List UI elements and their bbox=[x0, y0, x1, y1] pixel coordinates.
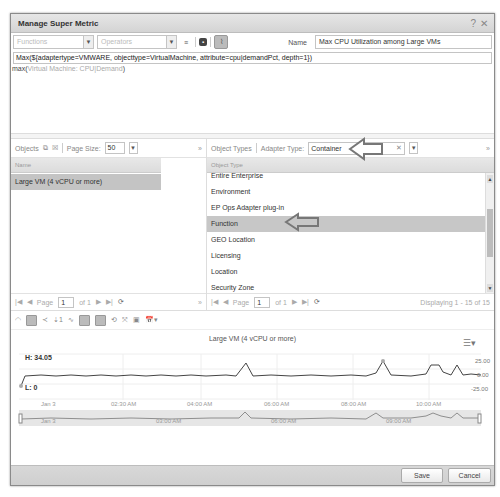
chevron-down-icon[interactable]: ▼ bbox=[129, 142, 138, 154]
cancel-button[interactable]: Cancel bbox=[448, 468, 491, 483]
formula-editor-area[interactable] bbox=[11, 73, 494, 133]
zoom-chart-icon[interactable] bbox=[79, 315, 90, 326]
metric-chart: Large VM (4 vCPU or more) ☰▾ H: 34.05 L:… bbox=[11, 330, 494, 435]
reset-icon[interactable]: ⟲ bbox=[111, 316, 117, 324]
high-label: H: 34.05 bbox=[25, 354, 52, 361]
object-types-panel: Object Types Adapter Type: Container ✕ ▼… bbox=[207, 139, 494, 310]
page-input[interactable]: 1 bbox=[58, 297, 74, 308]
help-icon[interactable]: ? bbox=[470, 18, 476, 29]
object-types-label: Object Types bbox=[211, 145, 252, 152]
chevron-down-icon[interactable]: ▼ bbox=[409, 142, 418, 154]
list-item[interactable]: EP Ops Adapter plug-in bbox=[207, 200, 494, 216]
divider bbox=[256, 143, 257, 153]
list-item[interactable]: Location bbox=[207, 264, 494, 280]
callout-arrow-icon bbox=[348, 137, 384, 161]
this-object-icon[interactable]: ≡ bbox=[180, 36, 192, 48]
prev-page-icon[interactable]: ◀ bbox=[27, 298, 32, 306]
zoom-view-icon[interactable] bbox=[95, 315, 106, 326]
refresh-icon[interactable]: ⟳ bbox=[118, 298, 124, 306]
date-range-icon[interactable]: 📅▾ bbox=[145, 316, 158, 324]
share-icon[interactable]: ≺ bbox=[42, 316, 48, 324]
line-chart[interactable]: H: 34.05 L: 0 25.00 0.00 -25.00 Jan 3 02… bbox=[11, 350, 496, 435]
expand-icon[interactable]: » bbox=[486, 145, 490, 152]
copy-icon[interactable]: ⧉ bbox=[43, 144, 48, 152]
dialog-titlebar: Manage Super Metric ? ✕ bbox=[11, 14, 494, 33]
svg-text:Jan 3: Jan 3 bbox=[41, 401, 56, 407]
list-item[interactable]: Environment bbox=[207, 184, 494, 200]
list-item[interactable]: Security Zone bbox=[207, 280, 494, 293]
svg-text:06:00 AM: 06:00 AM bbox=[271, 418, 296, 424]
objects-panel: Objects ⧉ ☒ Page Size: 50 ▼ » Name Large… bbox=[11, 139, 207, 310]
svg-text:03:00 AM: 03:00 AM bbox=[156, 418, 181, 424]
list-item[interactable]: Entire Enterprise bbox=[207, 173, 494, 184]
save-icon[interactable]: ▣ bbox=[133, 316, 140, 324]
top-n-icon[interactable]: ⇣1 bbox=[53, 316, 63, 324]
page-size-input[interactable]: 50 bbox=[105, 142, 125, 154]
svg-text:04:00 AM: 04:00 AM bbox=[187, 401, 212, 407]
svg-text:Jan 3: Jan 3 bbox=[41, 418, 56, 424]
functions-dropdown[interactable]: Functions ▼ bbox=[13, 35, 94, 49]
navigator-handle-left[interactable] bbox=[19, 414, 22, 423]
list-item[interactable]: GEO Location bbox=[207, 232, 494, 248]
clear-icon[interactable]: ☒ bbox=[52, 144, 58, 152]
clear-icon[interactable]: ✕ bbox=[396, 144, 402, 152]
svg-text:02:30 AM: 02:30 AM bbox=[111, 401, 136, 407]
close-icon[interactable]: ✕ bbox=[480, 18, 488, 29]
name-input[interactable]: Max CPU Utilization among Large VMs bbox=[315, 35, 492, 49]
object-types-pager: |◀ ◀ Page 1 of 1 ▶ ▶| ⟳ Displaying 1 - 1… bbox=[207, 293, 494, 310]
column-header-name[interactable]: Name bbox=[11, 158, 161, 173]
dashboard-icon[interactable]: ◠ bbox=[15, 316, 21, 324]
expand-icon[interactable]: » bbox=[198, 299, 202, 306]
formula-input[interactable]: Max(${adaptertype=VMWARE, objecttype=Vir… bbox=[13, 52, 492, 64]
toggle-chart-icon[interactable] bbox=[26, 315, 37, 326]
next-page-icon[interactable]: ▶ bbox=[96, 298, 101, 306]
manage-super-metric-dialog: Manage Super Metric ? ✕ Functions ▼ Oper… bbox=[10, 13, 495, 486]
preview-chart-icon[interactable]: ⌇ bbox=[214, 35, 228, 49]
chart-menu-icon[interactable]: ☰▾ bbox=[463, 338, 476, 348]
svg-text:08:00 AM: 08:00 AM bbox=[341, 401, 366, 407]
divider bbox=[62, 143, 63, 153]
operators-dropdown[interactable]: Operators ▼ bbox=[97, 35, 177, 49]
last-page-icon[interactable]: ▶| bbox=[302, 298, 309, 306]
scrollbar[interactable]: ▲ ▼ bbox=[485, 173, 494, 293]
fit-icon[interactable]: ⤧ bbox=[122, 316, 128, 324]
object-types-list: Entire Enterprise Environment EP Ops Ada… bbox=[207, 173, 494, 293]
svg-text:0.00: 0.00 bbox=[477, 372, 489, 378]
name-label: Name bbox=[288, 39, 307, 46]
chevron-down-icon: ▼ bbox=[83, 36, 93, 48]
trend-icon[interactable]: ∿ bbox=[68, 316, 74, 324]
list-item-selected[interactable]: Function bbox=[207, 216, 494, 232]
page-input[interactable]: 1 bbox=[254, 297, 270, 308]
adapter-type-label: Adapter Type: bbox=[261, 145, 304, 152]
divider bbox=[210, 37, 211, 47]
first-page-icon[interactable]: |◀ bbox=[15, 298, 22, 306]
last-page-icon[interactable]: ▶| bbox=[106, 298, 113, 306]
legacy-formula-icon[interactable]: ▪ bbox=[199, 38, 207, 46]
objects-pager: |◀ ◀ Page 1 of 1 ▶ ▶| ⟳ » bbox=[11, 293, 206, 310]
svg-text:-25.00: -25.00 bbox=[471, 386, 489, 392]
svg-text:06:00 AM: 06:00 AM bbox=[264, 401, 289, 407]
scroll-down-icon[interactable]: ▼ bbox=[487, 284, 493, 292]
formula-toolbar: Functions ▼ Operators ▼ ≡ ▪ ⌇ Name Max C… bbox=[11, 33, 494, 51]
objects-list: Large VM (4 vCPU or more) bbox=[11, 173, 206, 293]
prev-page-icon[interactable]: ◀ bbox=[223, 298, 228, 306]
chart-title: Large VM (4 vCPU or more) bbox=[11, 330, 494, 342]
svg-text:09:00 AM: 09:00 AM bbox=[386, 418, 411, 424]
save-button[interactable]: Save bbox=[401, 468, 443, 483]
navigator-handle-right[interactable] bbox=[478, 414, 481, 423]
scrollbar-thumb[interactable] bbox=[487, 209, 493, 257]
expand-icon[interactable]: » bbox=[198, 145, 202, 152]
refresh-icon[interactable]: ⟳ bbox=[314, 298, 320, 306]
dialog-title: Manage Super Metric bbox=[18, 19, 98, 28]
list-item[interactable]: Large VM (4 vCPU or more) bbox=[11, 174, 161, 190]
chevron-down-icon: ▼ bbox=[166, 36, 176, 48]
scroll-up-icon[interactable]: ▲ bbox=[487, 175, 493, 183]
page-size-label: Page Size: bbox=[67, 145, 101, 152]
list-item[interactable]: Licensing bbox=[207, 248, 494, 264]
low-label: L: 0 bbox=[25, 384, 38, 391]
next-page-icon[interactable]: ▶ bbox=[292, 298, 297, 306]
chart-toolbar: ◠ ≺ ⇣1 ∿ ⟲ ⤧ ▣ 📅▾ bbox=[11, 310, 494, 330]
formula-description: max(Virtual Machine: CPU|Demand) bbox=[11, 64, 494, 73]
callout-arrow-icon bbox=[284, 212, 320, 232]
first-page-icon[interactable]: |◀ bbox=[211, 298, 218, 306]
